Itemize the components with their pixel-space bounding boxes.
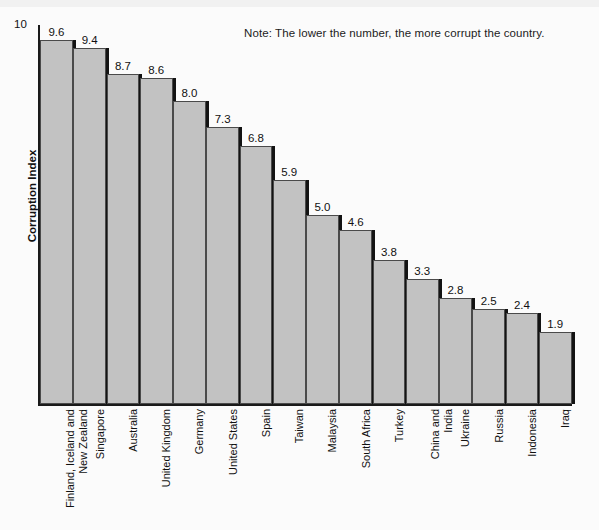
x-axis-label: Indonesia <box>506 409 539 527</box>
x-axis-label-text: Indonesia <box>526 409 539 457</box>
bar-column: 1.9 <box>539 25 572 404</box>
bar-value-label: 2.4 <box>500 299 545 311</box>
x-axis-label: Taiwan <box>273 409 306 527</box>
x-axis-label: China andIndia <box>406 409 439 527</box>
bar-column: 7.3 <box>206 25 239 404</box>
bar-column: 2.5 <box>472 25 505 404</box>
x-axis-label: Singapore <box>73 409 106 527</box>
x-axis-label-text: Germany <box>193 409 206 454</box>
bar-column: 8.0 <box>173 25 206 404</box>
x-axis-label: Ukraine <box>439 409 472 527</box>
bar-column: 9.4 <box>73 25 106 404</box>
bar-value-label: 5.9 <box>267 166 312 178</box>
bar[interactable] <box>140 78 173 404</box>
bar[interactable] <box>472 309 505 404</box>
bar-value-label: 7.3 <box>200 113 245 125</box>
x-axis-label: Spain <box>240 409 273 527</box>
bar-value-label: 3.3 <box>400 265 445 277</box>
y-axis-tick-10: 10 <box>14 18 27 30</box>
bar-plot-area: 9.69.48.78.68.07.36.85.95.04.63.83.32.82… <box>40 25 572 404</box>
x-axis-label: Australia <box>107 409 140 527</box>
bar[interactable] <box>240 146 273 404</box>
scan-edge <box>0 0 599 7</box>
x-axis-label-text: Iraq <box>559 409 572 428</box>
bar[interactable] <box>306 215 339 405</box>
bar[interactable] <box>406 279 439 404</box>
bar[interactable] <box>173 101 206 404</box>
bar[interactable] <box>273 180 306 404</box>
x-axis-label-text: Australia <box>127 409 140 452</box>
bar[interactable] <box>439 298 472 404</box>
bar-value-label: 2.8 <box>433 284 478 296</box>
bar[interactable] <box>539 332 572 404</box>
bar-column: 5.0 <box>306 25 339 404</box>
x-axis-line <box>38 404 572 406</box>
bar-column: 3.3 <box>406 25 439 404</box>
bar-column: 5.9 <box>273 25 306 404</box>
x-axis-label-text: Taiwan <box>293 409 306 443</box>
bar-column: 9.6 <box>40 25 73 404</box>
x-axis-category-labels: Finland, Iceland andNew ZealandSingapore… <box>40 409 572 527</box>
x-axis-label-text: Russia <box>493 409 506 443</box>
x-axis-label: Germany <box>173 409 206 527</box>
x-axis-label: United States <box>206 409 239 527</box>
bar-column: 8.7 <box>107 25 140 404</box>
bar-value-label: 8.6 <box>134 64 179 76</box>
x-axis-label: Turkey <box>373 409 406 527</box>
x-axis-label: United Kingdom <box>140 409 173 527</box>
bar-value-label: 1.9 <box>533 318 578 330</box>
bar-value-label: 5.0 <box>300 201 345 213</box>
x-axis-label: Malaysia <box>306 409 339 527</box>
bar[interactable] <box>40 40 73 404</box>
bar-column: 4.6 <box>339 25 372 404</box>
x-axis-label-text: Singapore <box>94 409 107 459</box>
bar-value-label: 6.8 <box>234 132 279 144</box>
bar[interactable] <box>373 260 406 404</box>
x-axis-label-text: Spain <box>260 409 273 437</box>
bar[interactable] <box>73 48 106 404</box>
bar-value-label: 9.4 <box>67 34 112 46</box>
bar-column: 8.6 <box>140 25 173 404</box>
x-axis-label-text: Turkey <box>393 409 406 442</box>
x-axis-label-text: United Kingdom <box>160 409 173 487</box>
x-axis-label: Finland, Iceland andNew Zealand <box>40 409 73 527</box>
x-axis-label-text: Malaysia <box>326 409 339 452</box>
bar-column: 2.4 <box>506 25 539 404</box>
x-axis-label-text: Ukraine <box>459 409 472 447</box>
x-axis-label: South Africa <box>339 409 372 527</box>
x-axis-label-text: United States <box>227 409 240 475</box>
bar[interactable] <box>107 74 140 404</box>
bar-value-label: 4.6 <box>333 216 378 228</box>
bar-column: 3.8 <box>373 25 406 404</box>
bar-value-label: 8.0 <box>167 87 212 99</box>
x-axis-label: Iraq <box>539 409 572 527</box>
y-axis-title: Corruption Index <box>26 126 38 266</box>
bar[interactable] <box>206 127 239 404</box>
bar-column: 6.8 <box>240 25 273 404</box>
chart-page: Note: The lower the number, the more cor… <box>0 0 599 530</box>
bar-column: 2.8 <box>439 25 472 404</box>
x-axis-label-text: South Africa <box>360 409 373 468</box>
bar-value-label: 3.8 <box>367 246 412 258</box>
x-axis-label: Russia <box>472 409 505 527</box>
